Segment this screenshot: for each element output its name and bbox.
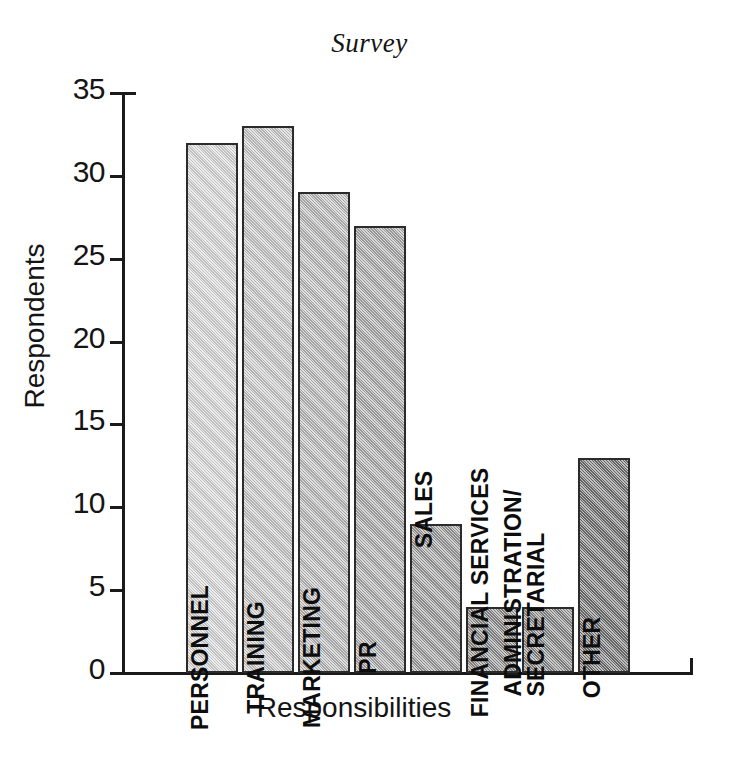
bar: SALES: [410, 524, 462, 673]
plot-area: PERSONNELTRAININGMARKETINGPRSALESFINANCI…: [124, 93, 693, 673]
y-axis-tick: [110, 258, 123, 261]
bar-category-label: ADMINISTRATION/SECRETARIAL: [502, 489, 548, 696]
bar: ADMINISTRATION/SECRETARIAL: [522, 607, 574, 673]
survey-bar-chart: Survey 05101520253035 Respondents Respon…: [0, 0, 739, 764]
bar-category-label: PR: [357, 641, 380, 673]
bar-category-label: OTHER: [581, 616, 604, 698]
y-axis-tick: [110, 92, 123, 95]
y-axis-tick-label: 5: [5, 569, 105, 603]
y-axis-tick: [110, 175, 123, 178]
bar-category-label: TRAINING: [245, 601, 268, 714]
bar-category-label: SALES: [413, 471, 436, 549]
bar: OTHER: [578, 458, 630, 673]
bar-category-label: MARKETING: [301, 586, 324, 727]
chart-title: Survey: [0, 28, 739, 59]
y-axis-tick: [110, 423, 123, 426]
bar-category-label: FINANCIAL SERVICES: [469, 468, 492, 717]
bar-category-label: PERSONNEL: [189, 585, 212, 730]
y-axis-tick-label: 10: [5, 486, 105, 520]
y-axis-tick-label: 0: [5, 652, 105, 686]
y-axis-tick: [110, 672, 123, 675]
y-axis-tick: [110, 341, 123, 344]
y-axis-tick-label: 35: [5, 72, 105, 106]
y-axis-tick: [110, 506, 123, 509]
bar: PERSONNEL: [186, 143, 238, 673]
bar: PR: [354, 226, 406, 673]
y-axis-title: Respondents: [19, 166, 51, 486]
y-axis-tick: [110, 589, 123, 592]
bar: TRAINING: [242, 126, 294, 673]
y-axis-tick-group: 05101520253035: [0, 0, 105, 764]
bar: MARKETING: [298, 192, 350, 673]
